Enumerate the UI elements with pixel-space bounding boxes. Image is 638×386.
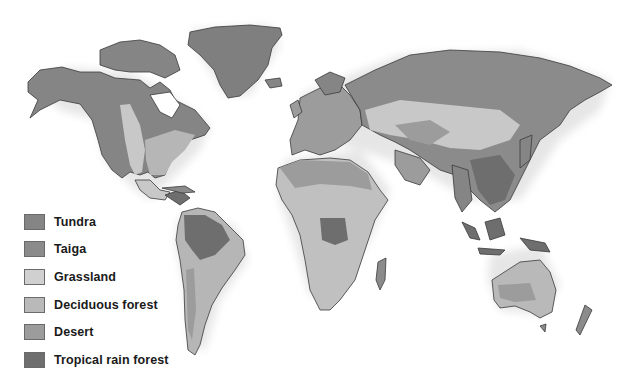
legend-label: Taiga: [54, 242, 86, 256]
legend-item-tundra: Tundra: [24, 208, 169, 236]
north-america: [28, 40, 210, 205]
grassland-swatch: [24, 269, 45, 285]
legend-label: Grassland: [54, 270, 116, 284]
legend-label: Deciduous forest: [54, 298, 158, 312]
legend-label: Tundra: [54, 215, 96, 229]
tundra-swatch: [24, 214, 45, 230]
taiga-swatch: [24, 241, 45, 257]
greenland: [188, 25, 282, 98]
desert-swatch: [24, 324, 45, 340]
new-zealand: [576, 305, 592, 335]
legend-item-desert: Desert: [24, 318, 169, 346]
legend-item-grassland: Grassland: [24, 263, 169, 291]
legend-label: Tropical rain forest: [54, 353, 169, 367]
legend: Tundra Taiga Grassland Deciduous forest …: [24, 208, 169, 374]
deciduous-forest-swatch: [24, 297, 45, 313]
legend-item-deciduous-forest: Deciduous forest: [24, 291, 169, 319]
legend-item-tropical-rain-forest: Tropical rain forest: [24, 346, 169, 374]
tropical-rain-forest-swatch: [24, 352, 45, 368]
indonesia: [462, 218, 550, 255]
legend-item-taiga: Taiga: [24, 236, 169, 264]
legend-label: Desert: [54, 325, 94, 339]
